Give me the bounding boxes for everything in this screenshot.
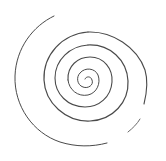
spiral-stroke-ring-4 (88, 32, 147, 104)
spiral-stroke-inner (68, 69, 99, 95)
spiral-stroke-outer (15, 16, 107, 146)
spiral-stroke-fragment (128, 119, 140, 132)
spiral-stroke-ring-2 (55, 45, 112, 107)
spiral-drawing (0, 0, 166, 161)
spiral-canvas (0, 0, 166, 161)
